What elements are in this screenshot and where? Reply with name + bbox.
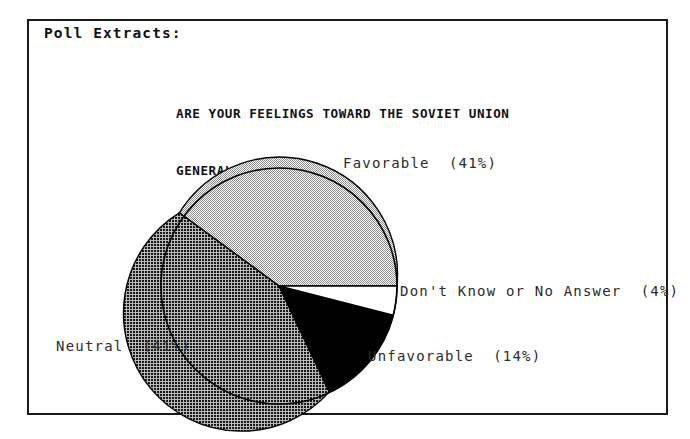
poll-extract-figure: Poll Extracts: ARE YOUR FEELINGS TOWARD … xyxy=(0,0,690,439)
pie-label-neutral: Neutral (41%) xyxy=(56,338,191,354)
pie-chart xyxy=(0,0,690,439)
pie-label-favorable: Favorable (41%) xyxy=(343,155,497,171)
pie-label-unfavorable: Unfavorable (14%) xyxy=(368,348,541,364)
pie-label-dont-know: Don't Know or No Answer (4%) xyxy=(400,283,679,299)
